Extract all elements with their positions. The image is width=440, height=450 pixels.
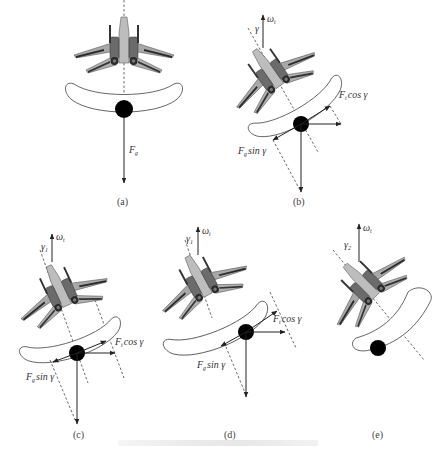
- projection-line: [50, 360, 76, 422]
- omega-label: ωt: [267, 13, 276, 25]
- panel-c-caption: (c): [73, 429, 84, 441]
- panel-e-caption: (e): [372, 429, 383, 441]
- panel-c: ωt γ1 Ftcos γ Fgsin γ (c): [6, 231, 145, 441]
- panel-a-caption: (a): [117, 196, 128, 208]
- ball: [370, 340, 386, 356]
- panel-e: ωt γ2 (e): [312, 222, 432, 441]
- projection-line: [273, 140, 301, 192]
- sin-component-label: Fgsin γ: [25, 371, 55, 383]
- angle-label: γ2: [344, 239, 351, 251]
- cos-component-label: Ftcos γ: [114, 336, 145, 348]
- aircraft-icon: [146, 234, 255, 326]
- ring-track: [18, 316, 126, 373]
- omega-label: ωt: [202, 225, 211, 237]
- gravity-label: Fg: [128, 144, 138, 156]
- aircraft-roll-force-diagram: Fg (a) ωt γ Ftcos γ Fgsin γ (b) ωt γ1: [0, 0, 440, 450]
- panel-d: ωt γ1 Ftcos γ Fgsin γ (d): [146, 225, 303, 441]
- panel-b-caption: (b): [293, 196, 305, 208]
- figure-caption-illegible: [118, 440, 318, 446]
- sin-component-label: Fgsin γ: [237, 145, 267, 157]
- omega-label: ωt: [363, 222, 372, 234]
- ring-track: [162, 300, 275, 367]
- panel-b: ωt γ Ftcos γ Fgsin γ (b): [216, 13, 369, 208]
- ball: [115, 100, 133, 118]
- angle-label: γ1: [186, 233, 193, 245]
- cos-component-label: Ftcos γ: [272, 313, 303, 325]
- angle-label: γ: [255, 23, 260, 34]
- omega-label: ωt: [56, 231, 65, 243]
- cos-component-label: Ftcos γ: [338, 89, 369, 101]
- projection-line: [330, 106, 341, 124]
- projection-line: [226, 347, 246, 395]
- aircraft-icon: [6, 246, 115, 334]
- angle-label: γ1: [41, 241, 48, 253]
- panel-a: Fg (a): [65, 0, 182, 208]
- sin-component-label: Fgsin γ: [196, 359, 226, 371]
